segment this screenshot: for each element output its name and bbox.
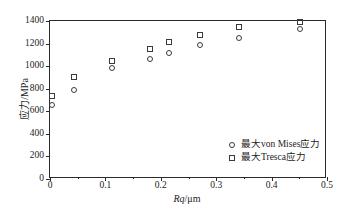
- data-point-circle: [147, 56, 153, 62]
- data-point-circle: [71, 87, 77, 93]
- x-tick-minor-mark: [299, 177, 300, 179]
- y-axis-title-text: 应力/MPa: [19, 78, 30, 120]
- data-point-square: [197, 32, 203, 38]
- circle-marker-icon: [229, 142, 235, 148]
- y-tick-label: 1400: [25, 16, 44, 26]
- y-tick-mark: [46, 134, 50, 135]
- data-point-square: [236, 24, 242, 30]
- x-tick-minor-mark: [78, 177, 79, 179]
- x-tick-minor-mark: [133, 177, 134, 179]
- data-point-circle: [166, 50, 172, 56]
- square-marker-icon: [229, 155, 235, 161]
- data-point-square: [71, 74, 77, 80]
- y-tick-mark: [46, 89, 50, 90]
- y-tick-label: 400: [30, 129, 44, 139]
- legend-item-label: 最大Tresca应力: [241, 153, 306, 163]
- data-point-circle: [297, 26, 303, 32]
- y-tick-label: 0: [39, 174, 44, 184]
- y-tick-mark: [46, 66, 50, 67]
- y-tick-label: 600: [30, 107, 44, 117]
- data-point-circle: [109, 65, 115, 71]
- y-tick-mark: [46, 156, 50, 157]
- legend-item: 最大von Mises应力: [229, 138, 320, 151]
- y-tick-label: 800: [30, 84, 44, 94]
- data-point-square: [166, 39, 172, 45]
- y-tick-label: 1200: [25, 39, 44, 49]
- x-tick-label: 0.5: [321, 181, 333, 191]
- data-point-circle: [236, 35, 242, 41]
- y-tick-label: 200: [30, 152, 44, 162]
- x-tick-minor-mark: [244, 177, 245, 179]
- legend-item: 最大Tresca应力: [229, 151, 320, 164]
- y-tick-mark: [46, 21, 50, 22]
- x-tick-label: 0.1: [99, 181, 111, 191]
- data-point-circle: [49, 102, 55, 108]
- y-tick-mark: [46, 111, 50, 112]
- x-axis-title-unit: /μm: [185, 193, 201, 204]
- x-tick-label: 0.2: [155, 181, 167, 191]
- data-point-square: [297, 19, 303, 25]
- legend: 最大von Mises应力最大Tresca应力: [229, 138, 320, 164]
- y-tick-mark: [46, 44, 50, 45]
- y-tick-label: 1000: [25, 61, 44, 71]
- data-point-square: [147, 46, 153, 52]
- x-axis-title: Rq/μm: [173, 194, 200, 204]
- x-axis-title-symbol: Rq: [173, 193, 184, 204]
- chart-figure: 应力/MPa 0200400600800100012001400 00.10.2…: [0, 0, 345, 216]
- x-tick-label: 0: [48, 181, 53, 191]
- data-point-circle: [197, 42, 203, 48]
- x-tick-label: 0.4: [266, 181, 278, 191]
- x-tick-label: 0.3: [210, 181, 222, 191]
- data-point-square: [109, 58, 115, 64]
- y-axis-title: 应力/MPa: [20, 78, 30, 120]
- legend-item-label: 最大von Mises应力: [241, 140, 320, 150]
- x-tick-minor-mark: [189, 177, 190, 179]
- data-point-square: [49, 93, 55, 99]
